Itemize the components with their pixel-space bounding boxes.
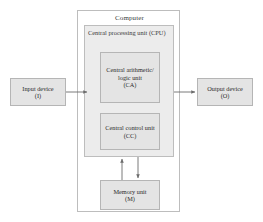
memory-label-line1: Memory unit <box>113 188 146 195</box>
cc-label-line1: Central control unit <box>105 124 154 131</box>
computer-title-label: Computer <box>78 14 181 22</box>
computer-architecture-diagram: Computer Central processing unit (CPU) C… <box>0 0 263 222</box>
central-control-unit-box: Central control unit (CC) <box>100 113 160 150</box>
output-label-line1: Output device <box>207 85 243 92</box>
cpu-title-label: Central processing unit (CPU) <box>88 29 172 37</box>
ca-label-line1: Central arithmetic/ <box>106 66 153 73</box>
memory-unit-box: Memory unit (M) <box>100 180 160 210</box>
cc-label-line2: (CC) <box>124 132 137 139</box>
input-label-line2: (I) <box>35 92 41 99</box>
input-device-box: Input device (I) <box>10 78 66 106</box>
central-arithmetic-logic-unit-box: Central arithmetic/ logic unit (CA) <box>100 52 160 103</box>
input-label-line1: Input device <box>22 85 53 92</box>
output-device-box: Output device (O) <box>197 78 253 106</box>
output-label-line2: (O) <box>221 92 230 99</box>
memory-label-line2: (M) <box>125 195 135 202</box>
ca-label-line2: logic unit <box>118 74 142 81</box>
ca-label-line3: (CA) <box>124 81 137 88</box>
